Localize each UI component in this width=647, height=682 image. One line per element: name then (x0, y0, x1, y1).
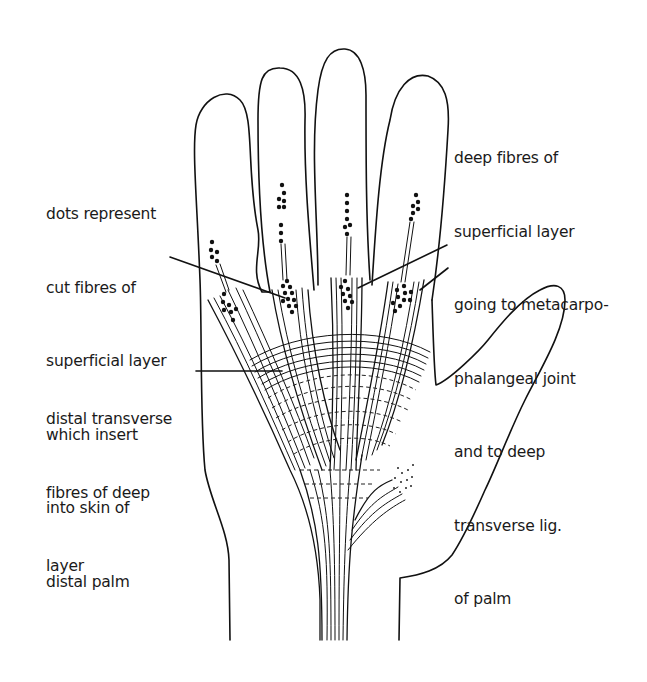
cut-fibre-dots (209, 183, 420, 322)
label-distal-transverse-fibres: distal transverse fibres of deep layer (46, 358, 172, 628)
label-line: dots represent (46, 202, 166, 227)
label-line: and to deep (454, 440, 609, 465)
middle-finger-outline (314, 49, 370, 285)
leader-deep-fibres-1 (358, 245, 447, 288)
label-line: of palm (454, 587, 609, 612)
label-line: going to metacarpo- (454, 293, 609, 318)
label-line: deep fibres of (454, 146, 609, 171)
label-line: layer (46, 554, 172, 579)
index-finger-outline (372, 75, 448, 300)
label-line: cut fibres of (46, 276, 166, 301)
label-deep-fibres: deep fibres of superficial layer going t… (454, 97, 609, 661)
label-line: phalangeal joint (454, 367, 609, 392)
label-line: superficial layer (454, 220, 609, 245)
label-line: fibres of deep (46, 481, 172, 506)
anatomy-figure: dots represent cut fibres of superficial… (0, 0, 647, 682)
label-line: transverse lig. (454, 514, 609, 539)
longitudinal-fibres (208, 222, 424, 640)
label-line: distal transverse (46, 407, 172, 432)
